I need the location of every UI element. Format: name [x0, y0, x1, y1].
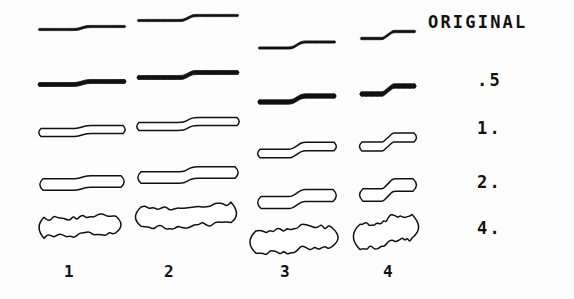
chromosome-outline: [258, 142, 337, 158]
chromosome-outline: [138, 167, 238, 184]
chromosome-outline: [258, 41, 335, 49]
column-label-col-4: 4: [383, 262, 393, 281]
chromosome-outline: [137, 14, 238, 21]
chromosome-outline: [38, 80, 126, 87]
chromosome-shape-col2-row-2: [138, 167, 238, 184]
chromosome-outline: [136, 202, 237, 229]
row-label-sigma-2: 2.: [477, 172, 502, 192]
chromosome-outline: [40, 176, 124, 191]
chromosome-shape-col3-row-5: [258, 94, 336, 104]
shape-canvas: [0, 0, 574, 299]
chromosome-outline: [250, 224, 338, 254]
chromosome-shape-col4-row-2: [360, 179, 417, 202]
chromosome-shape-col2-row-5: [137, 71, 239, 80]
chromosome-outline: [360, 133, 417, 151]
chromosome-outline: [360, 30, 415, 39]
chromosome-outline: [258, 190, 337, 209]
chromosome-shape-col4-row-5: [360, 84, 417, 97]
row-label-sigma-1: 1.: [477, 118, 502, 138]
chromosome-shape-col1-row-4: [39, 214, 121, 238]
row-label-sigma-4: 4.: [477, 218, 502, 238]
chromosome-shape-col2-row-ORIGINAL: [137, 14, 238, 21]
column-label-col-3: 3: [280, 262, 290, 281]
chromosome-shape-col3-row-ORIGINAL: [258, 41, 335, 49]
chromosome-shape-col1-row-2: [40, 176, 124, 191]
column-label-col-1: 1: [64, 262, 74, 281]
chromosome-shape-col4-row-1: [360, 133, 417, 151]
chromosome-outline: [360, 84, 417, 97]
chromosome-shape-col2-row-1: [137, 118, 239, 131]
chromosome-outline: [137, 71, 239, 80]
chromosome-shape-col1-row-5: [38, 80, 126, 87]
chromosome-outline: [137, 118, 239, 131]
chromosome-shape-col3-row-1: [258, 142, 337, 158]
chromosome-shape-col4-row-4: [353, 214, 418, 249]
column-label-col-2: 2: [164, 262, 174, 281]
chromosome-outline: [360, 179, 417, 202]
chromosome-outline: [353, 214, 418, 249]
chromosome-shape-col1-row-1: [39, 126, 125, 137]
chromosome-shape-col4-row-ORIGINAL: [360, 30, 415, 39]
chromosome-smoothing-figure: ORIGINAL.51.2.4. 1234: [0, 0, 574, 299]
row-label-sigma-0-5: .5: [477, 70, 502, 90]
chromosome-shape-col3-row-4: [250, 224, 338, 254]
row-label-original: ORIGINAL: [428, 12, 527, 32]
chromosome-outline: [39, 126, 125, 137]
chromosome-outline: [258, 94, 336, 104]
chromosome-outline: [39, 214, 121, 238]
chromosome-outline: [38, 25, 125, 30]
chromosome-shape-col2-row-4: [136, 202, 237, 229]
chromosome-shape-col1-row-ORIGINAL: [38, 25, 125, 30]
chromosome-shape-col3-row-2: [258, 190, 337, 209]
